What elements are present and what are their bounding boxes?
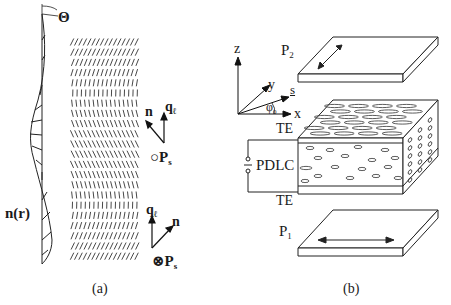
cross-in-icon: ⊗ <box>152 253 165 269</box>
upper-n-label: n <box>145 105 153 119</box>
lower-n-label: n <box>172 215 180 229</box>
pdlc-label: PDLC <box>256 158 294 173</box>
dot-out-icon: ○ <box>150 149 159 165</box>
caption-a: (a) <box>92 282 108 296</box>
electrode-bottom-label: TE <box>276 194 293 208</box>
axis-y-label: y <box>268 78 275 92</box>
upper-ps-label: ○Ps <box>150 150 172 167</box>
angle-label: φ0 <box>266 101 276 116</box>
axis-s-label: s <box>290 83 295 96</box>
polarizer-top <box>298 37 438 82</box>
figure-drawing <box>0 0 451 305</box>
polarizer-top-label: P2 <box>281 43 294 60</box>
axis-z-label: z <box>234 42 240 56</box>
lower-ps-label: ⊗Ps <box>152 254 177 271</box>
smectic-layers <box>70 39 139 260</box>
lower-q-label: qℓ <box>146 203 157 219</box>
theta-arc <box>42 4 58 16</box>
polarizer-bottom-label: P1 <box>279 224 292 241</box>
coordinate-axes <box>235 57 291 117</box>
lower-triad <box>149 216 173 248</box>
pdlc-cell <box>298 100 438 194</box>
electrode-top-label: TE <box>276 122 293 136</box>
polarizer-bottom <box>298 210 438 256</box>
axis-x-label: x <box>294 107 301 121</box>
caption-b: (b) <box>343 282 359 296</box>
upper-q-label: qℓ <box>165 100 176 116</box>
theta-label: Θ <box>58 10 70 25</box>
director-helix <box>30 14 52 264</box>
director-label: n(r) <box>5 206 30 221</box>
